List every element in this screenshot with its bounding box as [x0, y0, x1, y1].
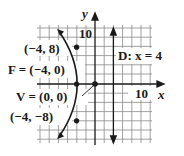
focus-label: F = (−4, 0) [8, 62, 65, 77]
axes [37, 13, 164, 145]
point-bottom-marker [74, 118, 79, 123]
parabola-figure: y 10 10 x (−4, 8) F = (−4, 0) V = (0, 0)… [0, 0, 184, 156]
y-axis-arrow-icon [92, 13, 98, 20]
y-tick-label: 10 [79, 26, 92, 41]
point-top-label: (−4, 8) [24, 41, 60, 56]
x-tick-label: 10 [135, 86, 148, 101]
directrix-up-arrow-icon [111, 28, 117, 35]
directrix-down-arrow-icon [111, 136, 117, 143]
x-axis-label: x [157, 87, 165, 102]
point-top-marker [74, 45, 79, 50]
vertex-marker [92, 81, 98, 87]
directrix-label: D: x = 4 [118, 48, 162, 63]
point-bottom-label: (−4, −8) [10, 109, 53, 124]
vertex-label: V = (0, 0) [16, 89, 67, 104]
focus-marker [74, 81, 79, 86]
directrix-line [111, 28, 117, 143]
y-axis-label: y [80, 6, 88, 21]
